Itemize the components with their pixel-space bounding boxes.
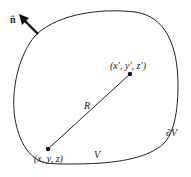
- point-dot: [46, 147, 50, 151]
- point-label: (x, y, z): [34, 154, 63, 164]
- volume-label: V: [94, 150, 100, 160]
- distance-line: [48, 74, 130, 149]
- boundary-label: ∂V: [166, 128, 177, 138]
- distance-label: R: [84, 101, 90, 111]
- point-prime-label: (x′, y′, z′): [110, 61, 146, 71]
- normal-arrow-shaft: [25, 21, 38, 34]
- point-prime-dot: [128, 72, 132, 76]
- volume-diagram: n̂ (x′, y′, z′) (x, y, z) R V ∂V: [0, 0, 191, 177]
- boundary-curve: [14, 11, 178, 164]
- normal-label: n̂: [10, 15, 16, 25]
